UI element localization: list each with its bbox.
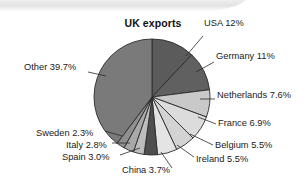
leader-line-ireland (177, 145, 194, 157)
pie-label-china: China 3.7% (122, 165, 170, 176)
pie-label-other: Other 39.7% (24, 62, 76, 73)
pie-label-germany: Germany 11% (216, 51, 275, 62)
chart-canvas: UK exports USA 12%Germany 11%Netherlands… (0, 0, 306, 185)
pie-label-spain: Spain 3.0% (62, 152, 110, 163)
pie-label-italy: Italy 2.8% (66, 140, 107, 151)
pie-label-france: France 6.9% (218, 118, 271, 129)
leader-line-belgium (190, 134, 213, 145)
pie-label-netherlands: Netherlands 7.6% (217, 90, 291, 101)
pie-label-ireland: Ireland 5.5% (196, 154, 248, 165)
pie-label-usa: USA 12% (204, 18, 244, 29)
pie-label-sweden: Sweden 2.3% (36, 128, 93, 139)
leader-line-usa (186, 36, 203, 56)
pie-slices (94, 39, 210, 155)
pie-label-belgium: Belgium 5.5% (215, 140, 272, 151)
